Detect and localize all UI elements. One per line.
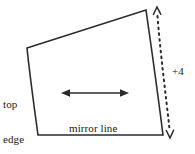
offset-value-label: +4 [172, 66, 184, 78]
diagram-canvas: top edge mirror line +4 [0, 0, 195, 154]
top-edge-label-line1: top [3, 99, 24, 111]
top-edge-label: top edge [3, 76, 24, 154]
mirror-line-label: mirror line [69, 123, 117, 135]
quadrilateral-shape [27, 10, 163, 135]
top-edge-label-line2: edge [3, 134, 24, 146]
arrowhead-up-icon [153, 7, 160, 15]
arrowhead-down-icon [166, 130, 173, 138]
